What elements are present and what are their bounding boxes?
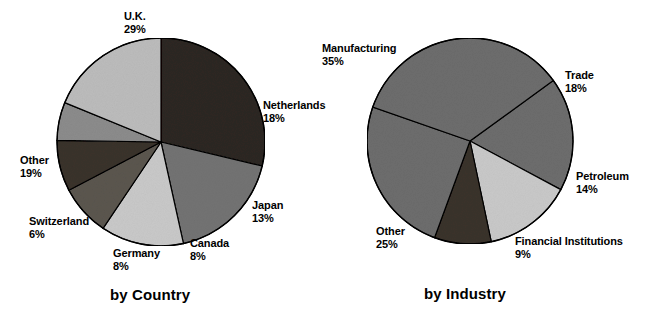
label-other-industry: Other 25%	[376, 225, 405, 250]
caption-by-industry: by Industry	[424, 285, 506, 302]
label-other-country: Other 19%	[20, 154, 49, 179]
label-other-industry-pct: 25%	[376, 238, 405, 251]
label-switzerland-name: Switzerland	[29, 215, 89, 227]
label-canada-name: Canada	[190, 237, 229, 249]
label-manufacturing-name: Manufacturing	[322, 42, 396, 54]
label-financial-institutions: Financial Institutions 9%	[515, 235, 623, 260]
caption-by-country: by Country	[110, 286, 190, 303]
label-petroleum-name: Petroleum	[576, 170, 629, 182]
label-japan: Japan 13%	[252, 199, 283, 224]
label-manufacturing: Manufacturing 35%	[322, 42, 396, 67]
label-petroleum: Petroleum 14%	[576, 170, 629, 195]
label-netherlands-pct: 18%	[263, 112, 325, 125]
label-financial-institutions-pct: 9%	[515, 248, 623, 261]
label-trade-pct: 18%	[565, 82, 594, 95]
label-switzerland-pct: 6%	[29, 228, 89, 241]
label-switzerland: Switzerland 6%	[29, 215, 89, 240]
label-petroleum-pct: 14%	[576, 183, 629, 196]
label-uk-name: U.K.	[124, 10, 146, 22]
label-germany-pct: 8%	[113, 260, 160, 273]
label-uk: U.K. 29%	[124, 10, 146, 35]
label-manufacturing-pct: 35%	[322, 55, 396, 68]
label-other-country-pct: 19%	[20, 167, 49, 180]
label-japan-name: Japan	[252, 199, 283, 211]
label-canada-pct: 8%	[190, 250, 229, 263]
label-germany: Germany 8%	[113, 247, 160, 272]
pie-by-industry	[367, 38, 573, 244]
label-trade-name: Trade	[565, 69, 594, 81]
label-other-country-name: Other	[20, 154, 49, 166]
label-other-industry-name: Other	[376, 225, 405, 237]
label-germany-name: Germany	[113, 247, 160, 259]
label-financial-institutions-name: Financial Institutions	[515, 235, 623, 247]
label-netherlands-name: Netherlands	[263, 99, 325, 111]
label-netherlands: Netherlands 18%	[263, 99, 325, 124]
label-trade: Trade 18%	[565, 69, 594, 94]
pie-charts-figure: U.K. 29% Netherlands 18% Japan 13% Canad…	[0, 0, 659, 325]
label-japan-pct: 13%	[252, 212, 283, 225]
label-canada: Canada 8%	[190, 237, 229, 262]
label-uk-pct: 29%	[124, 23, 146, 36]
